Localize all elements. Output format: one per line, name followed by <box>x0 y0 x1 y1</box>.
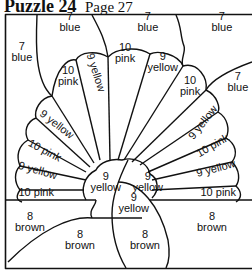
region-label-brown: 8brown <box>15 211 45 233</box>
region-label-pink: 10pink <box>180 75 200 97</box>
region-color: pink <box>115 53 135 64</box>
region-color: blue <box>138 22 159 33</box>
region-label-yellow: 9yellow <box>148 51 179 73</box>
region-color: blue <box>228 82 249 93</box>
region-label-yellow: 9yellow <box>91 171 122 193</box>
region-label-yellow: 9yellow <box>119 192 150 214</box>
region-label-pink: 10pink <box>115 42 135 64</box>
region-label-blue: 7blue <box>60 11 81 33</box>
region-color: pink <box>180 86 200 97</box>
region-label-blue: 7blue <box>12 41 33 63</box>
region-color: pink <box>58 76 78 87</box>
region-label-brown: 8brown <box>65 229 95 251</box>
region-number: 10 pink <box>19 187 54 198</box>
region-color: yellow <box>148 62 179 73</box>
region-label-brown: 8brown <box>197 211 227 233</box>
region-color: yellow <box>91 182 122 193</box>
region-color: brown <box>65 240 95 251</box>
region-label-pink: 10pink <box>58 65 78 87</box>
region-label-brown: 8brown <box>130 229 160 251</box>
region-color: blue <box>212 22 233 33</box>
region-label-blue: 7blue <box>212 11 233 33</box>
region-label-blue: 7blue <box>228 71 249 93</box>
region-number: 10 pink <box>201 187 236 198</box>
region-color: brown <box>130 240 160 251</box>
region-color: yellow <box>119 203 150 214</box>
region-color: blue <box>60 22 81 33</box>
region-color: blue <box>12 52 33 63</box>
region-label-blue: 7blue <box>138 11 159 33</box>
region-color: brown <box>197 222 227 233</box>
region-label-pink: 10 pink <box>201 187 236 198</box>
region-label-yellow: 9yellow <box>133 171 164 193</box>
region-color: brown <box>15 222 45 233</box>
region-label-pink: 10 pink <box>19 187 54 198</box>
